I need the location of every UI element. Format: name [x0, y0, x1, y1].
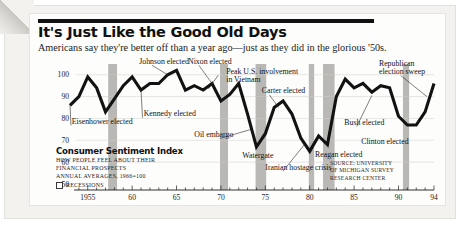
chart-legend: Consumer Sentiment Index HOW PEOPLE FEEL… — [56, 146, 186, 189]
page-title: It's Just Like the Good Old Days — [38, 24, 287, 40]
x-tick-label: 70 — [217, 193, 225, 202]
chart-annotation-label: Oil embargo — [194, 130, 233, 139]
source-line-2: OF MICHIGAN SURVEY — [330, 167, 394, 174]
annotation-leader-line — [199, 65, 212, 83]
y-tick-label: 90 — [61, 92, 69, 101]
x-tick-label: 65 — [173, 193, 181, 202]
x-tick-label: 85 — [350, 193, 358, 202]
title-rule-divider — [38, 19, 374, 23]
y-tick-label: 80 — [61, 114, 69, 123]
recession-band — [403, 64, 409, 190]
chart-annotation-label: Iranian hostage crisis — [265, 163, 331, 172]
chart-annotation-label: Nixon elected — [188, 57, 232, 66]
x-tick-label: 60 — [128, 193, 136, 202]
annotation-leader-line — [70, 105, 71, 125]
legend-subtitle-1: HOW PEOPLE FEEL ABOUT THEIR — [56, 156, 186, 164]
chart-annotation-label: Reagan elected — [315, 150, 363, 159]
legend-title: Consumer Sentiment Index — [56, 146, 186, 156]
annotation-leader-line — [152, 65, 168, 74]
x-tick-label: 90 — [395, 193, 403, 202]
x-tick-label: 1955 — [80, 193, 95, 202]
screenshot-page: It's Just Like the Good Old Days America… — [0, 0, 461, 228]
recession-swatch-icon — [56, 182, 63, 189]
x-tick-label: 80 — [306, 193, 314, 202]
legend-recession-entry: RECESSIONS — [56, 181, 186, 189]
annotation-leader-line — [141, 90, 142, 118]
legend-recession-label: RECESSIONS — [66, 181, 104, 189]
x-tick-label: 94 — [430, 193, 438, 202]
chart-annotation-label: Clinton elected — [361, 137, 409, 146]
legend-subtitle-2: FINANCIAL PROSPECTS — [56, 164, 186, 172]
y-tick-label: 70 — [61, 136, 69, 145]
page-fold-corner-icon — [0, 0, 34, 34]
chart-annotation-label: Eisenhower elected — [72, 117, 133, 126]
source-line-1: SOURCE: UNIVERSITY — [330, 160, 394, 167]
chart-annotation-label: Kennedy elected — [144, 109, 196, 118]
page-deck: Americans say they're better off than a … — [38, 42, 387, 53]
chart-annotation-label: Bush elected — [344, 118, 384, 127]
chart-annotation-label: in Vietnam — [226, 75, 260, 84]
source-line-3: RESEARCH CENTER — [330, 175, 394, 182]
legend-subtitle-3: ANNUAL AVERAGES, 1966=100 — [56, 172, 186, 180]
chart-source: SOURCE: UNIVERSITY OF MICHIGAN SURVEY RE… — [330, 160, 394, 182]
chart-annotation-label: election sweep — [379, 67, 425, 76]
chart-annotation-label: Watergate — [242, 151, 274, 160]
x-tick-label: 75 — [262, 193, 270, 202]
chart-annotation-label: Johnson elected — [139, 57, 189, 66]
chart-annotation-label: Carter elected — [262, 86, 306, 95]
y-tick-label: 100 — [58, 70, 70, 79]
